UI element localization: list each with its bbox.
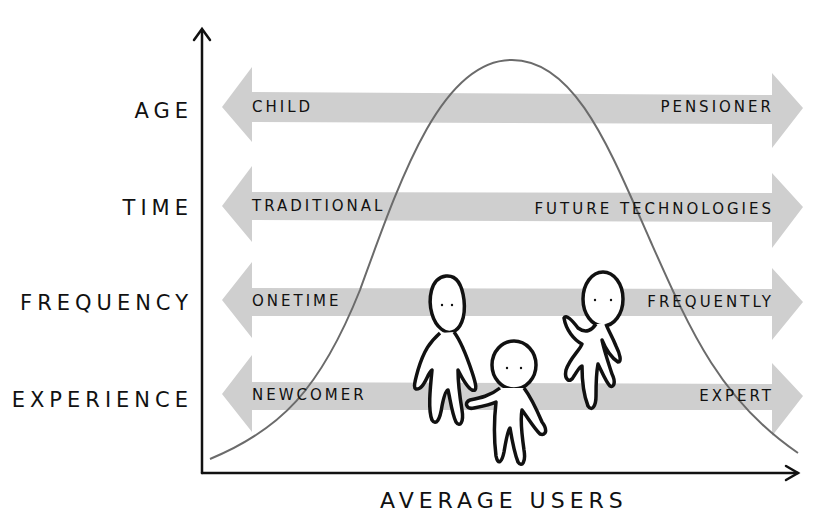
- frequency-left-label: ONETIME: [252, 292, 342, 310]
- diagram-graphics: [0, 0, 818, 532]
- x-axis-label: AVERAGE USERS: [380, 488, 628, 513]
- small-person-waving-figure: [467, 341, 546, 464]
- time-right-label: FUTURE TECHNOLOGIES: [534, 200, 774, 218]
- dimension-label-experience: EXPERIENCE: [12, 388, 193, 412]
- age-left-label: CHILD: [252, 98, 313, 116]
- experience-right-label: EXPERT: [699, 387, 774, 405]
- time-left-label: TRADITIONAL: [252, 197, 385, 215]
- age-right-label: PENSIONER: [660, 98, 774, 116]
- frequency-right-label: FREQUENTLY: [647, 293, 774, 311]
- dimension-label-age: AGE: [134, 99, 193, 123]
- experience-left-label: NEWCOMER: [252, 386, 367, 404]
- dimension-label-frequency: FREQUENCY: [20, 291, 193, 315]
- average-users-diagram: AGE TIME FREQUENCY EXPERIENCE CHILD PENS…: [0, 0, 818, 532]
- dimension-label-time: TIME: [123, 196, 193, 220]
